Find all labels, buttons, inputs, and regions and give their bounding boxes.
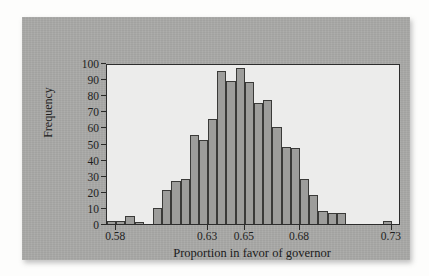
histogram-bar — [236, 68, 245, 224]
y-axis-tick: 30 — [62, 170, 106, 184]
histogram-bar — [383, 221, 392, 224]
y-axis-tick: 100 — [62, 57, 106, 71]
y-axis-tick-label: 90 — [88, 73, 107, 87]
histogram-bar — [199, 140, 208, 224]
histogram-bar — [309, 195, 318, 224]
histogram-bar — [263, 100, 272, 224]
histogram-bar — [190, 135, 199, 224]
histogram-bar — [226, 81, 235, 224]
y-axis-tick-label: 50 — [88, 138, 107, 152]
histogram-bar — [181, 179, 190, 224]
histogram-bar — [300, 179, 309, 224]
histogram-bar — [254, 103, 263, 224]
y-axis-title: Frequency — [41, 68, 56, 158]
y-axis-tick-label: 30 — [88, 170, 107, 184]
histogram-bar — [153, 208, 162, 224]
x-axis-tick-label: 0.58 — [85, 230, 145, 242]
x-axis-tick-label: 0.65 — [214, 230, 274, 242]
histogram-bar — [125, 216, 134, 224]
histogram-bar — [107, 221, 116, 224]
histogram-bar — [328, 213, 337, 224]
plot-inner — [107, 65, 399, 224]
histogram-bars — [107, 65, 399, 224]
x-axis-tick-label: 0.68 — [269, 230, 329, 242]
y-axis-tick: 90 — [62, 73, 106, 87]
y-axis-tick-label: 40 — [88, 154, 107, 168]
histogram-bar — [318, 211, 327, 224]
y-axis-tick: 60 — [62, 121, 106, 135]
figure-panel: Frequency 0102030405060708090100 0.580.6… — [22, 17, 410, 260]
plot-area — [106, 64, 400, 225]
histogram-bar — [272, 127, 281, 224]
histogram-bar — [208, 119, 217, 224]
y-axis-tick: 80 — [62, 89, 106, 103]
y-axis-tick: 50 — [62, 138, 106, 152]
y-axis-tick-label: 60 — [88, 121, 107, 135]
y-axis-tick: 40 — [62, 154, 106, 168]
histogram-bar — [337, 213, 346, 224]
histogram-bar — [291, 148, 300, 224]
histogram-bar — [245, 82, 254, 224]
histogram-bar — [135, 222, 144, 224]
y-axis-tick-label: 100 — [82, 57, 106, 71]
histogram-bar — [162, 190, 171, 224]
y-axis-tick: 20 — [62, 186, 106, 200]
x-axis-tick-label: 0.73 — [361, 230, 421, 242]
x-axis-title: Proportion in favor of governor — [82, 246, 422, 261]
histogram-bar — [171, 181, 180, 224]
y-axis-tick-label: 80 — [88, 89, 107, 103]
histogram-bar — [116, 221, 125, 224]
y-axis: 0102030405060708090100 — [62, 57, 106, 232]
y-axis-tick: 10 — [62, 202, 106, 216]
y-axis-tick: 70 — [62, 105, 106, 119]
y-axis-tick-label: 70 — [88, 105, 107, 119]
y-axis-tick-label: 10 — [88, 202, 107, 216]
histogram-figure: Frequency 0102030405060708090100 0.580.6… — [0, 0, 429, 276]
histogram-bar — [282, 147, 291, 224]
y-axis-tick-label: 20 — [88, 186, 107, 200]
histogram-bar — [217, 71, 226, 224]
